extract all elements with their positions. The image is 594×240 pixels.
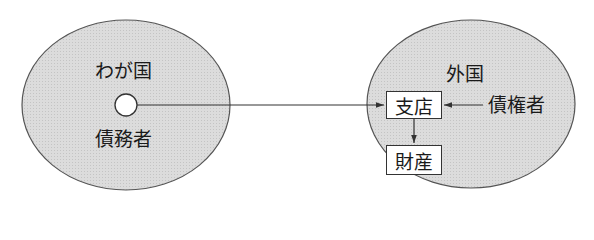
domestic-label: わが国 [95, 62, 152, 81]
debtor-node-icon [115, 94, 137, 116]
foreign-label: 外国 [446, 65, 484, 84]
branch-box: 支店 [386, 91, 442, 119]
creditor-label: 債権者 [488, 96, 545, 115]
debtor-label: 債務者 [95, 130, 152, 149]
property-box: 財産 [386, 145, 442, 175]
